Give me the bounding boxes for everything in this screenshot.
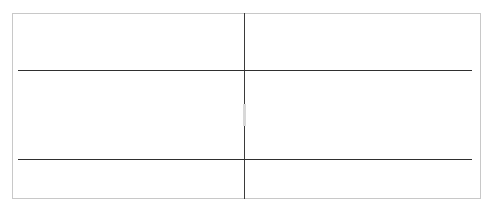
upper-lower-divider	[18, 70, 472, 71]
teeth-row-divider	[18, 159, 472, 160]
midline-gap	[243, 104, 246, 126]
dental-chart-frame	[12, 13, 481, 199]
